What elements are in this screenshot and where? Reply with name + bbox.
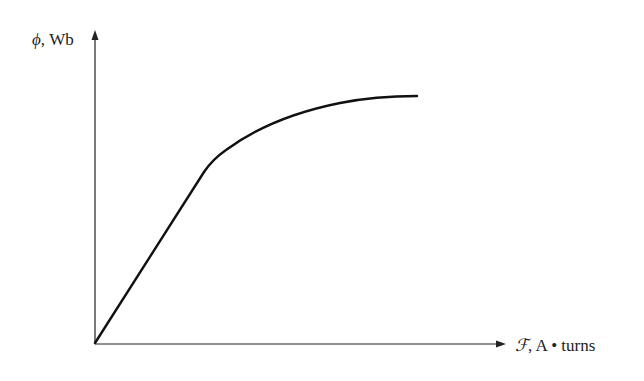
- magnetization-curve-diagram: [0, 0, 644, 381]
- flux-unit: , Wb: [41, 30, 74, 49]
- mmf-symbol: ℱ: [515, 336, 528, 355]
- x-axis-arrow-icon: [496, 341, 506, 348]
- flux-curve: [95, 96, 417, 343]
- x-axis-label: ℱ, A • turns: [515, 335, 595, 356]
- mmf-unit: , A • turns: [528, 336, 595, 355]
- y-axis-arrow-icon: [92, 30, 99, 40]
- y-axis-label: ϕ, Wb: [32, 30, 74, 50]
- flux-symbol: ϕ: [32, 30, 41, 49]
